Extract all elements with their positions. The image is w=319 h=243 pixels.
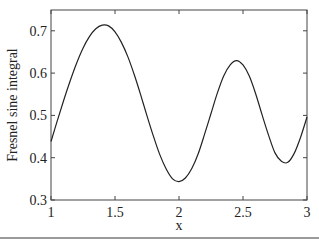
- plot-border: [51, 10, 307, 200]
- y-tick-label: 0.6: [30, 66, 48, 81]
- x-tick-label: 1: [48, 205, 55, 220]
- y-tick-label: 0.5: [30, 108, 48, 123]
- y-axis: 0.30.40.50.60.7: [30, 24, 308, 208]
- chart: 11.522.53 0.30.40.50.60.7 x Fresnel sine…: [0, 0, 319, 243]
- plot-area: [51, 10, 307, 200]
- y-tick-label: 0.7: [30, 24, 48, 39]
- x-tick-label: 2.5: [234, 205, 252, 220]
- y-tick-label: 0.4: [30, 151, 48, 166]
- y-axis-label: Fresnel sine integral: [5, 48, 20, 162]
- x-tick-label: 1.5: [106, 205, 124, 220]
- x-tick-label: 3: [304, 205, 311, 220]
- data-line-fresnel-sine: [51, 25, 307, 182]
- y-tick-label: 0.3: [30, 193, 48, 208]
- divider: [0, 237, 319, 239]
- x-axis-label: x: [176, 218, 183, 233]
